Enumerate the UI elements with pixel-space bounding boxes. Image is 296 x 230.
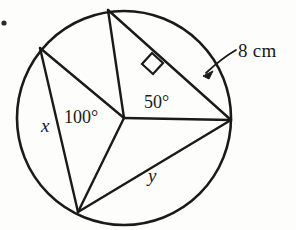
measurement-label-8cm: 8 cm <box>238 41 277 60</box>
unknown-label-x: x <box>41 116 49 135</box>
margin-bullet-mark <box>1 20 6 25</box>
radius-to-right-segment <box>124 118 231 120</box>
chord-top-right-segment <box>108 10 231 120</box>
radius-to-top-segment <box>108 10 124 118</box>
geometry-figure: 8 cm 100° 50° x y <box>0 0 296 230</box>
angle-label-100: 100° <box>64 108 98 126</box>
unknown-label-y: y <box>148 166 156 185</box>
angle-label-50: 50° <box>144 93 169 111</box>
